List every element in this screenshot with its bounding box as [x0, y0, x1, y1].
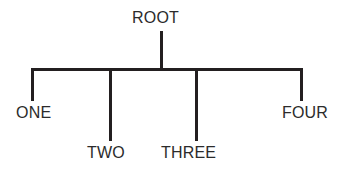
tree-diagram: ROOT ONE TWO THREE FOUR	[0, 0, 341, 170]
node-label-two: TWO	[87, 145, 125, 161]
node-label-four: FOUR	[282, 105, 328, 121]
node-label-root: ROOT	[132, 10, 179, 26]
node-label-one: ONE	[16, 105, 51, 121]
node-label-three: THREE	[161, 145, 216, 161]
